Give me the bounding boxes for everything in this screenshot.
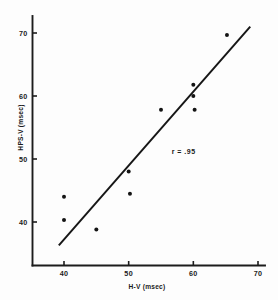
x-axis-title: H-V (msec) [129,283,166,291]
regression-line [59,27,250,246]
y-tick-label-50: 50 [19,155,28,164]
regression-line [59,27,250,246]
x-tick-label-40: 40 [60,269,69,278]
axes [33,16,266,266]
data-point-3 [127,170,131,174]
axis-ticks [33,33,259,266]
data-point-6 [191,83,195,87]
y-tick-label-70: 70 [19,29,28,38]
y-tick-label-40: 40 [19,218,28,227]
correlation-coefficient: r = .95 [172,148,196,155]
x-tick-label-60: 60 [189,269,198,278]
data-point-9 [225,33,229,37]
y-axis-title: HPS-V (msec) [17,104,25,150]
plot-canvas: 4050607040506070 r = .95 H-V (msec)HPS-V… [0,0,278,300]
x-tick-label-50: 50 [124,269,133,278]
data-point-5 [159,108,163,112]
axis-titles: H-V (msec)HPS-V (msec) [17,104,166,290]
data-point-8 [193,108,197,112]
chart-annotations: r = .95 [172,148,196,155]
x-tick-label-70: 70 [254,269,263,278]
y-tick-label-60: 60 [19,92,28,101]
data-points [62,33,229,232]
data-point-0 [62,195,66,199]
data-point-1 [62,218,66,222]
data-point-2 [94,228,98,232]
data-point-4 [128,192,132,196]
scatter-plot-figure: 4050607040506070 r = .95 H-V (msec)HPS-V… [0,0,278,300]
data-point-7 [191,94,195,98]
